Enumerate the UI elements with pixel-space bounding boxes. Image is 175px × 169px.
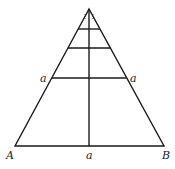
label-right-a: a — [130, 72, 137, 85]
label-vertex-B: B — [161, 149, 170, 162]
triangle-diagram: a a A a B — [0, 0, 175, 169]
label-left-a: a — [40, 72, 47, 85]
label-vertex-A: A — [5, 149, 14, 162]
label-base-a: a — [86, 149, 93, 162]
